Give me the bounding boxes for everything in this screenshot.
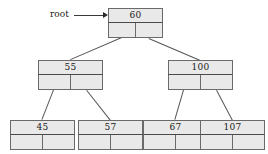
- left-pointer-cell-107[interactable]: [200, 135, 233, 150]
- left-pointer-cell-67[interactable]: [143, 135, 176, 150]
- right-pointer-cell-100[interactable]: [201, 75, 234, 90]
- root-arrow-shaft: [74, 15, 104, 16]
- node-pointers-100: [168, 75, 233, 90]
- right-pointer-cell-57[interactable]: [111, 135, 144, 150]
- node-pointers-45: [10, 135, 75, 150]
- node-pointers-55: [38, 75, 103, 90]
- tree-node-60[interactable]: 60: [108, 8, 163, 38]
- left-pointer-cell-57[interactable]: [78, 135, 111, 150]
- tree-node-55[interactable]: 55: [38, 60, 103, 90]
- node-pointers-57: [78, 135, 143, 150]
- root-pointer-label: root: [50, 10, 69, 19]
- edge-100-to-67: [175, 90, 185, 120]
- bst-diagram-canvas: root 6055100455767107: [0, 0, 268, 154]
- tree-node-45[interactable]: 45: [10, 120, 75, 150]
- tree-node-107[interactable]: 107: [200, 120, 265, 150]
- edge-55-to-45: [42, 90, 55, 120]
- edge-100-to-107: [216, 90, 233, 120]
- edge-60-to-55: [70, 37, 122, 60]
- left-pointer-cell-60[interactable]: [108, 23, 136, 38]
- tree-node-100[interactable]: 100: [168, 60, 233, 90]
- node-key-60: 60: [108, 8, 163, 23]
- edge-55-to-57: [86, 90, 111, 121]
- node-key-107: 107: [200, 120, 265, 135]
- node-pointers-107: [200, 135, 265, 150]
- left-pointer-cell-55[interactable]: [38, 75, 71, 90]
- right-pointer-cell-55[interactable]: [71, 75, 104, 90]
- node-key-100: 100: [168, 60, 233, 75]
- left-pointer-cell-45[interactable]: [10, 135, 43, 150]
- tree-node-57[interactable]: 57: [78, 120, 143, 150]
- tree-node-67[interactable]: 67: [143, 120, 208, 150]
- node-key-57: 57: [78, 120, 143, 135]
- node-pointers-60: [108, 23, 163, 38]
- node-key-67: 67: [143, 120, 208, 135]
- edge-60-to-100: [149, 38, 201, 61]
- right-pointer-cell-60[interactable]: [136, 23, 164, 38]
- right-pointer-cell-107[interactable]: [233, 135, 266, 150]
- node-pointers-67: [143, 135, 208, 150]
- node-key-45: 45: [10, 120, 75, 135]
- node-key-55: 55: [38, 60, 103, 75]
- left-pointer-cell-100[interactable]: [168, 75, 201, 90]
- right-pointer-cell-45[interactable]: [43, 135, 76, 150]
